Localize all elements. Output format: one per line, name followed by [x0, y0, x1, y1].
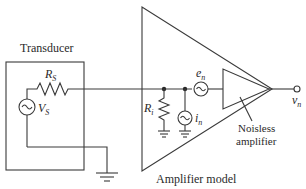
noiseless-label-line1: Noisless — [238, 122, 275, 134]
output-terminal: vn — [269, 86, 301, 109]
svg-text:VS: VS — [38, 101, 49, 117]
svg-text:RS: RS — [44, 67, 56, 83]
in-source: in — [178, 89, 202, 137]
rs-subscript: S — [52, 74, 56, 83]
noiseless-label-line2: amplifier — [236, 135, 277, 147]
amplifier-triangle-icon — [223, 69, 269, 109]
ri-subscript: i — [151, 108, 153, 117]
en-subscript: n — [201, 73, 205, 82]
transducer-label: Transducer — [20, 41, 74, 55]
svg-text:en: en — [196, 66, 205, 82]
sine-icon — [22, 105, 32, 109]
vs-source: VS — [19, 99, 107, 173]
ground-icon — [96, 173, 118, 181]
output-terminal-icon — [294, 86, 300, 92]
ri-resistor: Ri — [143, 89, 170, 137]
amplifier-model-label: Amplifier model — [156, 172, 237, 186]
noiseless-amplifier: Noisless amplifier — [223, 69, 277, 147]
vn-subscript: n — [297, 100, 301, 109]
svg-text:in: in — [195, 111, 202, 127]
in-subscript: n — [198, 118, 202, 127]
circuit-diagram: Transducer RS VS Amplifier model Ri — [0, 0, 306, 189]
svg-text:Ri: Ri — [143, 101, 154, 117]
sine-icon — [197, 87, 206, 91]
svg-text:vn: vn — [292, 93, 301, 109]
sine-icon — [181, 116, 190, 120]
vs-subscript: S — [45, 108, 49, 117]
callout-leader-line — [240, 97, 252, 121]
en-source: en — [194, 66, 223, 96]
